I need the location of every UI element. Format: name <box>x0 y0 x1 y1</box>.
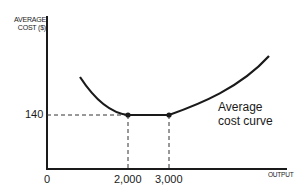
x-tick-2000: 2,000 <box>114 173 142 185</box>
curve-annotation-line1: Average <box>218 100 273 114</box>
curve-annotation: Average cost curve <box>218 100 273 128</box>
point-2000 <box>125 112 130 117</box>
curve-annotation-line2: cost curve <box>218 114 273 128</box>
chart-canvas <box>0 0 307 195</box>
y-axis-label-line2: COST ($) <box>6 24 46 32</box>
x-tick-0: 0 <box>44 173 50 185</box>
point-3000 <box>166 112 171 117</box>
y-tick-140: 140 <box>25 108 43 120</box>
y-axis-label-line1: AVERAGE <box>6 16 46 24</box>
y-axis-label: AVERAGE COST ($) <box>6 16 46 32</box>
x-axis-label: OUTPUT <box>268 171 294 178</box>
x-tick-3000: 3,000 <box>155 173 183 185</box>
